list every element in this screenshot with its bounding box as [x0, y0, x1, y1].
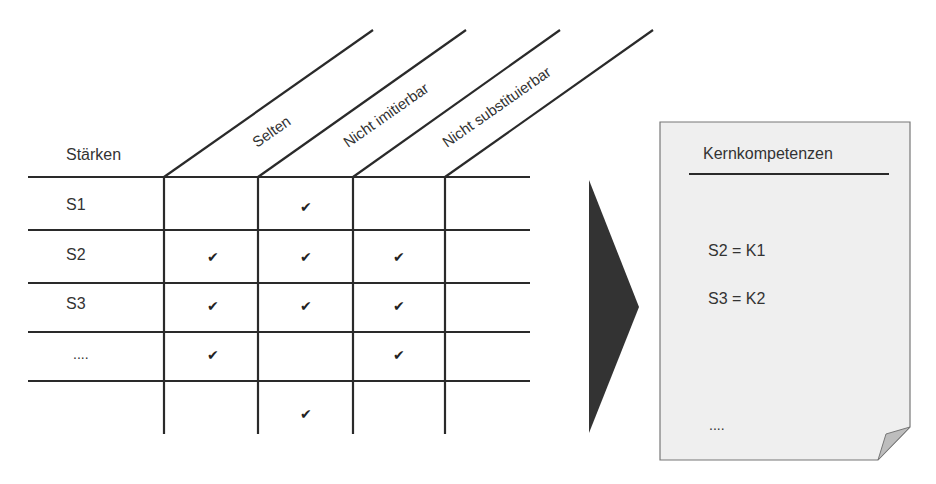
- checkmarks: ✔ ✔ ✔ ✔ ✔ ✔ ✔ ✔ ✔ ✔: [207, 199, 405, 422]
- check-icon: ✔: [393, 347, 405, 363]
- document-item-k1: S2 = K1: [708, 242, 765, 259]
- check-icon: ✔: [207, 249, 219, 265]
- row-label-ellipsis: ....: [73, 346, 89, 362]
- horizontal-grid-lines: [28, 177, 530, 381]
- document-ellipsis: ....: [709, 417, 725, 433]
- criterion-header-rare: Selten: [249, 112, 294, 150]
- diagonal-line-3: [353, 30, 560, 177]
- check-icon: ✔: [393, 298, 405, 314]
- row-label-s3: S3: [66, 295, 86, 312]
- check-icon: ✔: [207, 347, 219, 363]
- check-icon: ✔: [207, 298, 219, 314]
- right-arrow-icon: [589, 180, 639, 433]
- document-page: [660, 122, 910, 460]
- check-icon: ✔: [300, 298, 312, 314]
- diagonal-line-1: [164, 30, 373, 177]
- row-label-s2: S2: [66, 246, 86, 263]
- core-competence-diagram: Stärken Selten Nicht imitierbar Nicht su…: [0, 0, 936, 484]
- check-icon: ✔: [393, 249, 405, 265]
- diagonal-line-4: [445, 30, 653, 177]
- check-icon: ✔: [300, 199, 312, 215]
- document-title: Kernkompetenzen: [703, 145, 833, 162]
- result-document: Kernkompetenzen S2 = K1 S3 = K2 ....: [660, 122, 910, 460]
- row-label-s1: S1: [66, 196, 86, 213]
- criterion-header-inimitable: Nicht imitierbar: [340, 79, 432, 150]
- row-header-strengths: Stärken: [66, 146, 121, 163]
- diagonal-line-2: [258, 30, 466, 177]
- check-icon: ✔: [300, 406, 312, 422]
- document-item-k2: S3 = K2: [708, 290, 765, 307]
- check-icon: ✔: [300, 249, 312, 265]
